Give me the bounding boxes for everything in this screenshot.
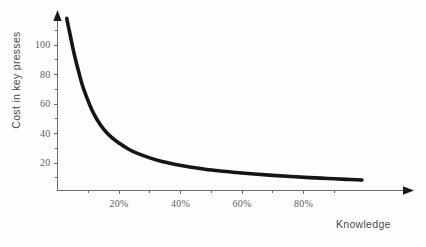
- y-axis-title: Cost in key presses: [10, 20, 22, 140]
- x-tick-label: 40%: [161, 198, 201, 209]
- y-tick-label: 100: [18, 39, 51, 50]
- chart-figure: 20406080100 20%40%60%80% Cost in key pre…: [0, 0, 426, 247]
- y-axis-arrow-up-icon: [53, 10, 61, 21]
- y-tick-label: 80: [18, 69, 51, 80]
- x-tick-label: 80%: [284, 198, 324, 209]
- y-tick-label: 60: [18, 98, 51, 109]
- data-curve: [67, 18, 362, 180]
- curve-layer: [67, 18, 362, 180]
- y-tick-label: 40: [18, 128, 51, 139]
- axis-layer: [53, 10, 414, 195]
- x-axis-title: Knowledge: [336, 218, 391, 230]
- y-tick-label: 20: [18, 157, 51, 168]
- chart-plot-area: [0, 0, 426, 247]
- x-tick-label: 60%: [222, 198, 262, 209]
- x-axis-arrow-right-icon: [403, 186, 414, 194]
- x-tick-label: 20%: [99, 198, 139, 209]
